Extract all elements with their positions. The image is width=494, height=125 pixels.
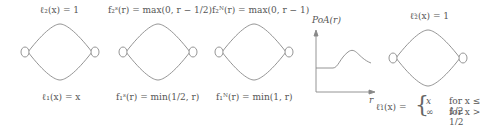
sink-node-icon (189, 47, 197, 57)
sink-node-icon (459, 53, 467, 63)
edge-label-bottom-4-lhs: ℓ̃₁(x) = (376, 102, 406, 112)
edge-label-bottom-2: f₁ˢ(r) = min(1/2, r) (116, 92, 199, 102)
source-node-icon (119, 47, 127, 57)
sink-node-icon (285, 47, 293, 57)
sink-node-icon (91, 47, 99, 57)
edge-label-top-2: f₂ˢ(r) = max(0, r − 1/2) (108, 5, 212, 15)
edge-label-bottom-3: f₁ᴺ(r) = min(1, r) (216, 92, 292, 102)
edge-label-top-3: f₂ᴺ(r) = max(0, r − 1) (212, 5, 309, 15)
case-condition: for x ≤ 1/2 (449, 96, 494, 107)
case-value: x (426, 96, 439, 107)
plot-xlabel: r (369, 95, 373, 105)
network-graph-2 (119, 24, 197, 80)
network-graph-3 (215, 24, 293, 80)
network-graph-4 (389, 30, 467, 86)
case-row: x for x ≤ 1/2 (426, 96, 494, 107)
case-row: ∞ for x > 1/2 (426, 107, 494, 118)
plot-ylabel: PoA(r) (312, 15, 341, 25)
piecewise-cases: x for x ≤ 1/2 ∞ for x > 1/2 (426, 96, 494, 118)
edge-label-top-1: ℓ₂(x) = 1 (40, 5, 79, 15)
source-node-icon (389, 53, 397, 63)
x-axis-arrow-icon (369, 90, 375, 94)
poa-curve (316, 50, 371, 68)
case-condition: for x > 1/2 (449, 107, 494, 118)
edge-label-top-4: ℓ̃₂(x) = 1 (410, 11, 449, 21)
network-graph-1 (21, 24, 99, 80)
source-node-icon (215, 47, 223, 57)
edge-label-bottom-1: ℓ₁(x) = x (42, 92, 80, 102)
poa-plot (314, 30, 375, 94)
case-value: ∞ (426, 107, 439, 118)
source-node-icon (21, 47, 29, 57)
y-axis-arrow-icon (314, 30, 318, 36)
